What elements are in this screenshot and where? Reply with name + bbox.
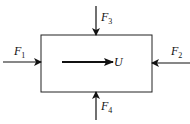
label-f1: F1 (14, 45, 25, 60)
diagram-canvas (0, 0, 190, 124)
label-f4: F4 (101, 100, 112, 115)
label-f3: F3 (101, 11, 112, 26)
body-rectangle (41, 35, 152, 92)
label-f2: F2 (171, 45, 182, 60)
label-u: U (114, 56, 123, 68)
